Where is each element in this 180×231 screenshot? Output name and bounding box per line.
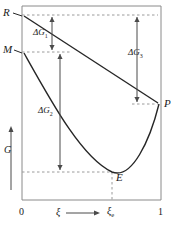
- delta-g-3-label: ΔG3: [128, 48, 143, 60]
- y-axis-arrow: [9, 126, 14, 190]
- x-axis-arrow: [66, 211, 100, 216]
- delta-g-1-symbol: ΔG: [33, 27, 45, 37]
- xi-e-subscript: e: [111, 211, 114, 218]
- x-axis-label: ξ: [56, 207, 60, 217]
- x-tick-1: 1: [158, 207, 163, 217]
- point-label-R: R: [3, 7, 10, 18]
- x-tick-xi-e: ξe: [107, 206, 114, 219]
- delta-g-2-subscript: 2: [50, 111, 53, 117]
- delta-g-1-label: ΔG1: [33, 28, 48, 40]
- x-tick-0: 0: [19, 207, 24, 217]
- figure-canvas: R M P E ΔG1 ΔG2 ΔG3 G ξ 0 1 ξe: [0, 0, 180, 231]
- delta-g-3-symbol: ΔG: [128, 47, 140, 57]
- figure-svg: [0, 0, 180, 231]
- delta-g-2-symbol: ΔG: [38, 105, 50, 115]
- delta-g-1-subscript: 1: [45, 33, 48, 39]
- delta-g-2-label: ΔG2: [38, 106, 53, 118]
- point-label-E: E: [116, 172, 123, 183]
- y-axis-label: G: [4, 145, 11, 155]
- point-label-P: P: [164, 98, 171, 109]
- point-leader-lines: [13, 13, 22, 53]
- delta-g-3-subscript: 3: [140, 53, 143, 59]
- point-label-M: M: [3, 44, 12, 55]
